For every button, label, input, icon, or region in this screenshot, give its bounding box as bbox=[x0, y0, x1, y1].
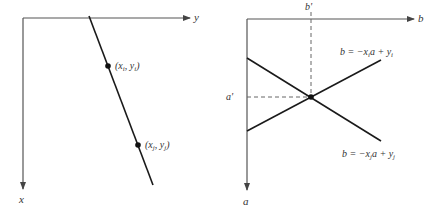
point-j bbox=[135, 142, 141, 148]
left-panel-xy-space: y x (xi, yi) (xj, yj) bbox=[18, 11, 199, 205]
intersection-point bbox=[308, 94, 314, 100]
b-prime-label: b' bbox=[305, 1, 313, 12]
y-axis-label: y bbox=[193, 11, 199, 23]
point-i bbox=[105, 63, 111, 69]
right-panel-ab-space: b a b' a' b = −xia + yi b = −xja + yj bbox=[226, 1, 424, 207]
point-i-label: (xi, yi) bbox=[115, 60, 140, 73]
x-axis-label: x bbox=[18, 193, 24, 205]
a-axis-label: a bbox=[243, 195, 249, 207]
b-axis-label: b bbox=[418, 12, 424, 24]
line-i-equation: b = −xia + yi bbox=[340, 46, 393, 59]
point-j-label: (xj, yj) bbox=[145, 139, 170, 152]
a-prime-label: a' bbox=[226, 91, 234, 102]
image-line bbox=[89, 16, 153, 185]
line-j-equation: b = −xja + yj bbox=[342, 148, 395, 161]
hough-transform-diagram: y x (xi, yi) (xj, yj) b a b' a' b = −xia… bbox=[0, 0, 438, 217]
